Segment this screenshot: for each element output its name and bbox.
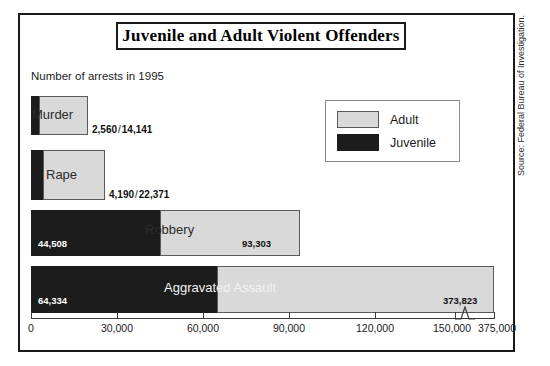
bar-value-rape-juvenile: 4,190 — [109, 189, 134, 200]
bar-label-aggravated-assault: Aggravated Assault — [164, 280, 276, 295]
x-axis-tick — [289, 312, 290, 319]
plot-area: Murder 2,560/14,141 Rape 4,190/22,371 Ro… — [0, 0, 550, 366]
bar-value-robbery-adult: 93,303 — [242, 238, 271, 249]
bar-value-aggravated-assault-juvenile: 64,334 — [38, 295, 67, 306]
bar-value-robbery-juvenile: 44,508 — [38, 238, 67, 249]
bar-value-murder-adult: 14,141 — [122, 124, 153, 135]
axis-break-icon — [455, 306, 475, 320]
x-tick-label-0: 0 — [28, 322, 34, 334]
x-tick-label-3: 90,000 — [273, 322, 305, 334]
bar-value-murder-juvenile: 2,560 — [92, 124, 117, 135]
legend-item-adult: Adult — [337, 111, 419, 128]
source-note: Source: Federal Bureau of Investigation. — [516, 15, 526, 176]
x-tick-label-5: 150,000 — [433, 322, 471, 334]
bar-value-murder: 2,560/14,141 — [92, 124, 152, 135]
bar-label-murder: Murder — [32, 107, 73, 122]
juvenile-swatch-icon — [337, 134, 379, 151]
x-tick-label-1: 30,000 — [101, 322, 133, 334]
x-tick-label-2: 60,000 — [187, 322, 219, 334]
legend-item-juvenile: Juvenile — [337, 134, 436, 151]
bar-segment-juvenile — [31, 210, 160, 256]
legend-label-adult: Adult — [390, 113, 419, 127]
x-axis-tick — [494, 312, 495, 319]
x-axis-tick — [375, 312, 376, 319]
x-tick-label-6: 375,000 — [478, 322, 516, 334]
bar-value-aggravated-assault-adult: 373,823 — [443, 295, 477, 306]
chart-figure: Juvenile and Adult Violent Offenders Num… — [0, 0, 550, 366]
bar-value-rape-adult: 22,371 — [139, 189, 170, 200]
x-axis-line — [31, 318, 495, 319]
bar-segment-juvenile — [31, 150, 43, 200]
bar-label-rape: Rape — [46, 167, 77, 182]
x-axis-tick — [31, 312, 32, 319]
bar-value-rape: 4,190/22,371 — [109, 189, 169, 200]
legend-label-juvenile: Juvenile — [390, 136, 436, 150]
x-tick-label-4: 120,000 — [356, 322, 394, 334]
x-axis-tick — [203, 312, 204, 319]
chart-legend: Adult Juvenile — [325, 100, 460, 162]
adult-swatch-icon — [337, 111, 379, 128]
x-axis-tick — [117, 312, 118, 319]
bar-label-robbery: Robbery — [145, 222, 194, 237]
